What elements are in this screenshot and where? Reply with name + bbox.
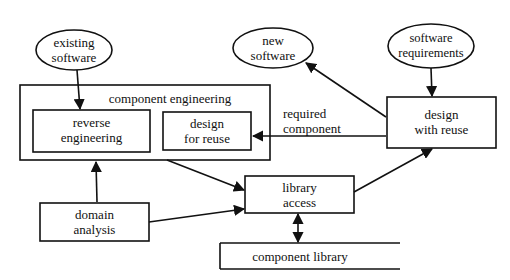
edge-requirements-to-design-with-reuse xyxy=(431,68,432,96)
label-line: engineering xyxy=(33,130,150,145)
library-access-label: library access xyxy=(245,180,354,210)
component-engineering-label: component engineering xyxy=(100,91,240,106)
label-line: library xyxy=(245,180,354,195)
edge-existing-to-reverse xyxy=(77,70,80,109)
label-line: requirements xyxy=(388,46,474,61)
label-line: required xyxy=(283,106,341,121)
label-line: with reuse xyxy=(387,122,496,137)
edge-domain-to-library-access xyxy=(149,209,244,222)
edge-domain-to-component-engineering xyxy=(96,162,97,202)
label-line: existing xyxy=(44,35,104,50)
edge-component-engineering-to-library-access xyxy=(167,160,244,190)
reverse-engineering-label: reverse engineering xyxy=(33,115,150,145)
new-software-label: new software xyxy=(238,33,308,63)
label-line: access xyxy=(245,195,354,210)
component-library-label: component library xyxy=(220,249,380,264)
design-for-reuse-label: design for reuse xyxy=(163,116,251,146)
label-line: software xyxy=(238,48,308,63)
label-line: software xyxy=(388,31,474,46)
label-line: design xyxy=(387,107,496,122)
design-with-reuse-label: design with reuse xyxy=(387,107,496,137)
label-line: for reuse xyxy=(163,131,251,146)
existing-software-label: existing software xyxy=(44,35,104,65)
label-line: new xyxy=(238,33,308,48)
edge-library-access-to-design-with-reuse xyxy=(354,149,432,192)
domain-analysis-label: domain analysis xyxy=(40,207,149,237)
label-line: reverse xyxy=(33,115,150,130)
label-line: software xyxy=(44,50,104,65)
label-line: component xyxy=(283,121,341,136)
software-requirements-label: software requirements xyxy=(388,31,474,61)
label-line: analysis xyxy=(40,222,149,237)
label-line: domain xyxy=(40,207,149,222)
required-component-label: required component xyxy=(283,106,341,136)
label-line: design xyxy=(163,116,251,131)
